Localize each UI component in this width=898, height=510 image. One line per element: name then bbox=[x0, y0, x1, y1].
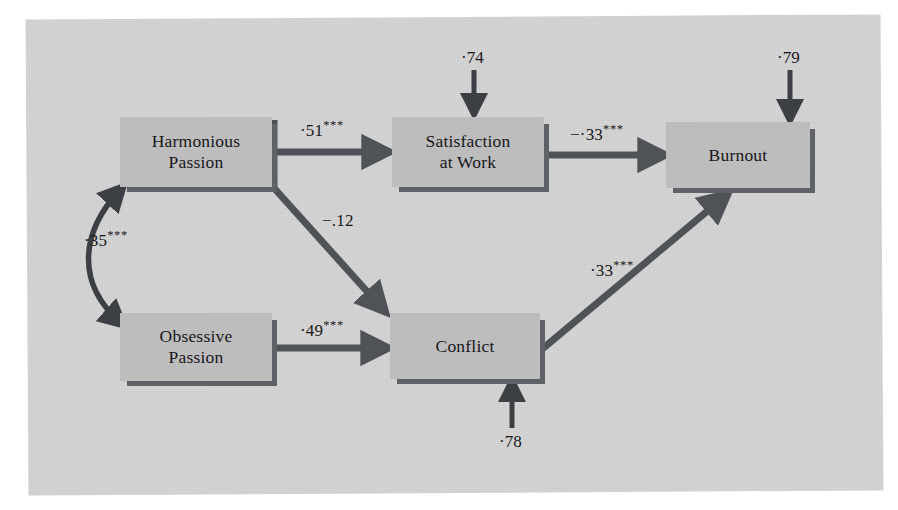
node-burnout-label: Burnout bbox=[709, 145, 768, 166]
coef-hp-op-correlation: ·35*** bbox=[84, 228, 128, 251]
coef-op-to-conflict: ·49*** bbox=[300, 318, 344, 341]
node-burnout[interactable]: Burnout bbox=[666, 122, 810, 188]
coef-op-to-conflict-sig: *** bbox=[323, 318, 344, 332]
disturbance-label-conflict: ·78 bbox=[499, 432, 522, 452]
coef-satisfaction-to-burnout-value: −·33 bbox=[570, 125, 603, 144]
node-harmonious-passion-label: Harmonious Passion bbox=[152, 131, 241, 172]
path-hp-to-conflict bbox=[274, 188, 381, 307]
coef-satisfaction-to-burnout-sig: *** bbox=[603, 122, 624, 136]
node-conflict-label: Conflict bbox=[436, 336, 495, 357]
coef-conflict-to-burnout-sig: *** bbox=[613, 258, 634, 272]
node-satisfaction-at-work-label: Satisfaction at Work bbox=[425, 131, 510, 172]
path-hp-op-correlation bbox=[89, 190, 121, 322]
coef-op-to-conflict-value: ·49 bbox=[300, 321, 323, 340]
node-conflict[interactable]: Conflict bbox=[390, 313, 540, 379]
coef-conflict-to-burnout-value: ·33 bbox=[590, 261, 613, 280]
coef-hp-to-satisfaction-sig: *** bbox=[323, 118, 344, 132]
node-obsessive-passion-label: Obsessive Passion bbox=[160, 326, 233, 367]
path-diagram: Harmonious Passion Satisfaction at Work … bbox=[0, 0, 898, 510]
coef-hp-to-conflict-value: −.12 bbox=[322, 211, 354, 230]
disturbance-label-satisfaction: ·74 bbox=[461, 48, 484, 68]
coef-hp-op-correlation-value: ·35 bbox=[84, 231, 107, 250]
node-satisfaction-at-work[interactable]: Satisfaction at Work bbox=[392, 117, 544, 187]
coef-hp-to-conflict: −.12 bbox=[322, 208, 354, 231]
coef-hp-to-satisfaction-value: ·51 bbox=[300, 121, 323, 140]
coef-conflict-to-burnout: ·33*** bbox=[590, 258, 634, 281]
node-harmonious-passion[interactable]: Harmonious Passion bbox=[120, 117, 272, 187]
node-obsessive-passion[interactable]: Obsessive Passion bbox=[120, 313, 272, 381]
figure-page: Harmonious Passion Satisfaction at Work … bbox=[0, 0, 898, 510]
coef-hp-op-correlation-sig: *** bbox=[107, 228, 128, 242]
disturbance-label-burnout: ·79 bbox=[777, 48, 800, 68]
coef-hp-to-satisfaction: ·51*** bbox=[300, 118, 344, 141]
path-links-layer bbox=[0, 0, 898, 510]
coef-satisfaction-to-burnout: −·33*** bbox=[570, 122, 624, 145]
